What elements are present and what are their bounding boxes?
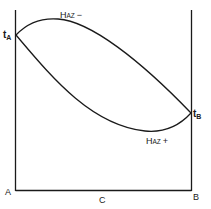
label-component-b: B [193, 192, 199, 202]
lower-curve-haz-plus [16, 35, 191, 131]
label-haz-minus: HAZ− [60, 10, 82, 20]
label-haz-plus: HAZ+ [146, 136, 168, 146]
label-tb: tB [193, 108, 201, 120]
label-component-a: A [5, 187, 11, 197]
label-axis-c: C [99, 195, 106, 205]
phase-diagram: tA tB HAZ− HAZ+ A B C [0, 0, 211, 209]
label-ta: tA [3, 29, 11, 41]
